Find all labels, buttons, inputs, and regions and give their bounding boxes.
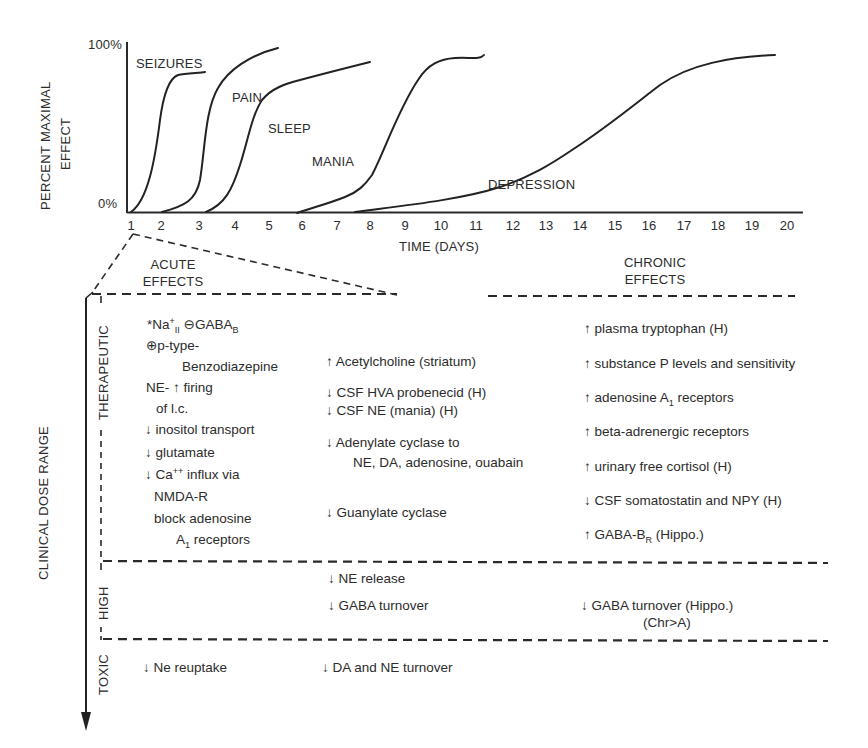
guanylate-line: ↓ Guanylate cyclase — [326, 506, 447, 520]
x-tick: 2 — [157, 218, 164, 233]
a1-receptors-line: A1 receptors — [176, 533, 250, 547]
somatostatin-line: ↓ CSF somatostatin and NPY (H) — [584, 494, 782, 508]
circled-plus-icon: ⊕ — [146, 338, 157, 353]
chronic-effects-heading: CHRONIC EFFECTS — [610, 255, 700, 287]
lithium-effects-diagram: 100% 0% PERCENT MAXIMAL EFFECT 1 2 3 4 5… — [0, 0, 868, 748]
chr-gt-a-note: (Chr>A) — [643, 616, 691, 630]
effect-curves — [131, 48, 775, 213]
dose-arrow — [81, 292, 93, 731]
acute-effects-heading: ACUTE EFFECTS — [128, 257, 218, 289]
curve-seizures — [131, 72, 205, 212]
na-text: *Na — [147, 317, 170, 332]
x-tick: 9 — [401, 218, 408, 233]
block-adenosine-line: block adenosine — [154, 512, 252, 526]
x-tick: 7 — [333, 218, 340, 233]
curve-mania — [297, 55, 484, 213]
a1-text: A — [176, 532, 185, 547]
y-axis-title-line1: PERCENT MAXIMAL — [38, 81, 53, 210]
x-tick: 8 — [366, 218, 373, 233]
gaba-turnover-chronic-line: ↓ GABA turnover (Hippo.) — [581, 599, 733, 613]
ptype-text: p-type- — [157, 338, 199, 353]
x-tick: 3 — [195, 218, 202, 233]
adenosine-text: ↑ adenosine A — [584, 390, 669, 405]
na-sub: II — [175, 325, 180, 335]
x-tick: 10 — [434, 218, 448, 233]
glutamate-line: ↓ glutamate — [145, 446, 215, 460]
tryptophan-line: ↑ plasma tryptophan (H) — [584, 322, 728, 336]
curve-pain — [162, 48, 278, 212]
x-tick: 11 — [469, 218, 483, 233]
nmda-line: NMDA-R — [154, 490, 208, 504]
adenylate-targets-line: NE, DA, adenosine, ouabain — [353, 456, 523, 470]
x-axis-title: TIME (DAYS) — [399, 239, 479, 254]
x-tick: 12 — [506, 218, 520, 233]
toxic-label: TOXIC — [96, 654, 111, 695]
x-tick: 1 — [127, 218, 134, 233]
gaba-turnover-acute-line: ↓ GABA turnover — [328, 599, 429, 613]
ca-sup: ++ — [173, 466, 184, 476]
csf-hva-line: ↓ CSF HVA probenecid (H) — [326, 386, 486, 400]
substance-p-line: ↑ substance P levels and sensitivity — [584, 357, 795, 371]
x-tick: 13 — [539, 218, 553, 233]
dose-range-title: CLINICAL DOSE RANGE — [36, 426, 51, 580]
y-tick-100: 100% — [88, 37, 122, 52]
ca-influx-line: ↓ Ca++ influx via — [145, 468, 240, 482]
chronic-heading-line2: EFFECTS — [610, 272, 700, 287]
adenosine-a1-line: ↑ adenosine A1 receptors — [584, 391, 734, 405]
ca-text: ↓ Ca — [145, 467, 173, 482]
acetylcholine-line: ↑ Acetylcholine (striatum) — [326, 355, 476, 369]
gaba-b-text: ↑ GABA-B — [584, 527, 646, 542]
high-label: HIGH — [96, 586, 111, 620]
inositol-line: ↓ inositol transport — [145, 423, 255, 437]
label-seizures: SEIZURES — [136, 56, 203, 71]
x-tick: 6 — [298, 218, 305, 233]
label-sleep: SLEEP — [268, 121, 311, 136]
chart-axes — [127, 42, 803, 213]
a1-suffix: receptors — [190, 532, 250, 547]
ne-release-line: ↓ NE release — [328, 572, 405, 586]
high-toxic-divider — [103, 639, 828, 641]
x-tick: 16 — [642, 218, 656, 233]
circled-minus-icon: ⊖ — [184, 317, 195, 332]
benzodiazepine-line: Benzodiazepine — [182, 360, 278, 374]
x-tick: 17 — [677, 218, 691, 233]
label-depression: DEPRESSION — [488, 177, 575, 192]
x-tick: 20 — [780, 218, 794, 233]
of-lc-line: of l.c. — [156, 402, 188, 416]
label-pain: PAIN — [232, 90, 262, 105]
y-tick-0: 0% — [98, 196, 117, 211]
beta-adrenergic-line: ↑ beta-adrenergic receptors — [584, 425, 749, 439]
gaba-br-line: ↑ GABA-BR (Hippo.) — [584, 528, 704, 542]
acute-left-dash — [92, 234, 133, 293]
gaba-hippo-suffix: (Hippo.) — [652, 527, 704, 542]
diagram-graphics — [0, 0, 868, 748]
da-ne-turnover-line: ↓ DA and NE turnover — [322, 661, 453, 675]
x-tick: 4 — [231, 218, 238, 233]
arrow-down-icon — [81, 712, 91, 731]
chronic-heading-line1: CHRONIC — [610, 255, 700, 270]
ne-firing-line: NE- ↑ firing — [146, 381, 213, 395]
x-tick: 14 — [573, 218, 587, 233]
curve-sleep — [206, 62, 370, 212]
x-tick: 15 — [608, 218, 622, 233]
x-tick: 5 — [265, 218, 272, 233]
acute-heading-line1: ACUTE — [128, 257, 218, 272]
ca-suffix: influx via — [183, 467, 239, 482]
label-mania: MANIA — [312, 154, 354, 169]
gaba-text: GABA — [195, 317, 233, 332]
ptype-line: ⊕p-type- — [146, 339, 199, 353]
x-tick: 18 — [711, 218, 725, 233]
ne-reuptake-line: ↓ Ne reuptake — [143, 661, 227, 675]
cortisol-line: ↑ urinary free cortisol (H) — [584, 460, 732, 474]
adenosine-suffix: receptors — [674, 390, 734, 405]
acute-heading-line2: EFFECTS — [128, 274, 218, 289]
csf-ne-line: ↓ CSF NE (mania) (H) — [326, 404, 458, 418]
x-tick: 19 — [745, 218, 759, 233]
na-gaba-line: *Na+II ⊖GABAB — [147, 318, 238, 332]
gaba-sub: B — [232, 325, 238, 335]
adenylate-line: ↓ Adenylate cyclase to — [326, 436, 460, 450]
therapeutic-high-divider — [103, 561, 828, 563]
y-axis-title-line2: EFFECT — [58, 118, 73, 170]
therapeutic-label: THERAPEUTIC — [96, 325, 111, 420]
dose-arrow-top-bend — [86, 292, 93, 298]
